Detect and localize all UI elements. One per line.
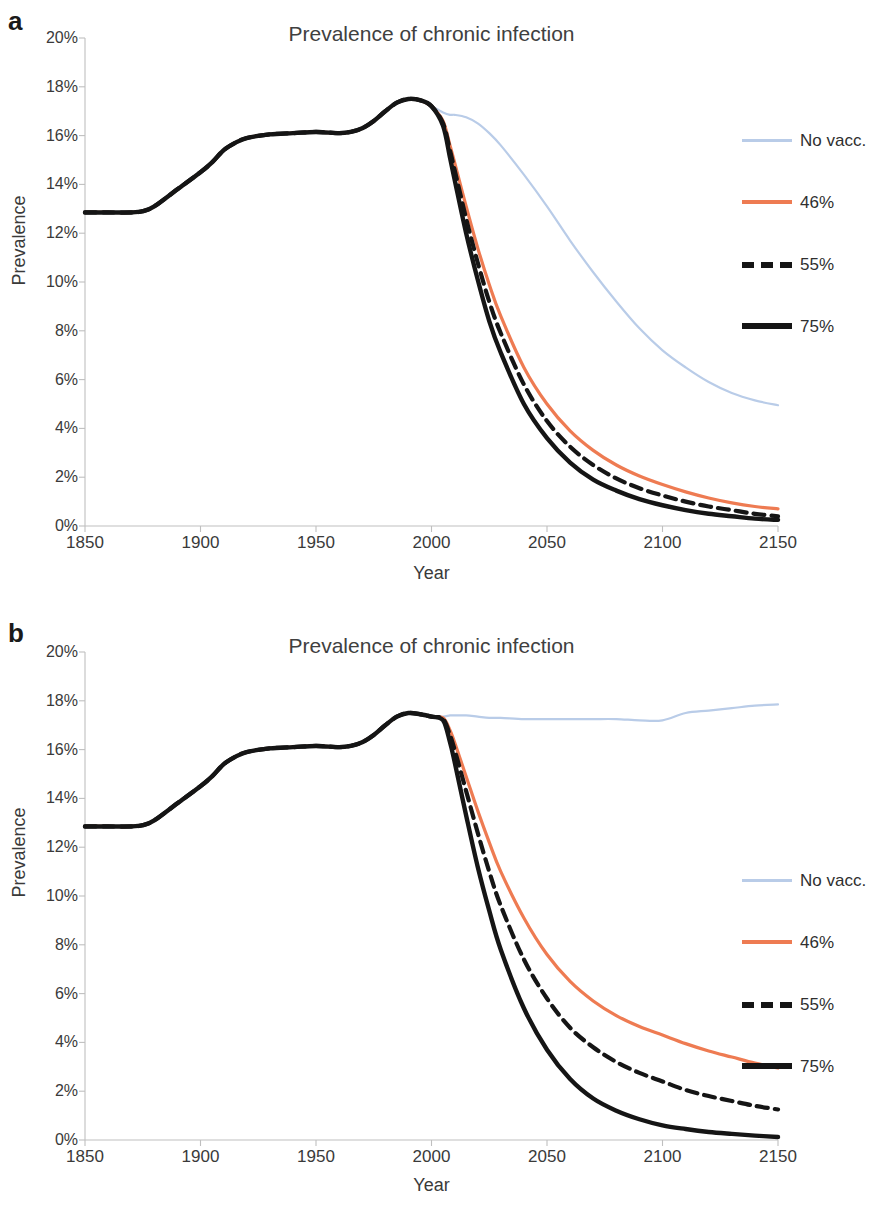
legend-label: 75% — [800, 316, 834, 338]
legend-label: 46% — [800, 932, 834, 954]
legend-item: 75% — [742, 1056, 883, 1078]
legend-label: 75% — [800, 1056, 834, 1078]
legend-swatch-46 — [742, 940, 792, 944]
legend-swatch-55 — [742, 262, 792, 268]
legend-label: 55% — [800, 994, 834, 1016]
series-line-75 — [85, 99, 778, 520]
series-line-no-vacc — [85, 99, 778, 405]
panel-b: b Prevalence of chronic infection Preval… — [0, 612, 883, 1224]
legend-item: 55% — [742, 254, 883, 276]
legend-item: No vacc. — [742, 870, 883, 892]
series-line-no-vacc — [85, 704, 778, 826]
figure-root: a Prevalence of chronic infection Preval… — [0, 0, 883, 1224]
series-line-46 — [85, 713, 778, 1068]
legend-label: No vacc. — [800, 870, 866, 892]
legend-a: No vacc.46%55%75% — [742, 130, 883, 350]
legend-item: 46% — [742, 192, 883, 214]
legend-label: 46% — [800, 192, 834, 214]
series-line-55 — [85, 713, 778, 1110]
legend-swatch-no-vacc — [742, 139, 792, 142]
series-line-55 — [85, 99, 778, 516]
legend-label: No vacc. — [800, 130, 866, 152]
legend-swatch-no-vacc — [742, 879, 792, 882]
legend-item: No vacc. — [742, 130, 883, 152]
legend-b: No vacc.46%55%75% — [742, 870, 883, 1090]
legend-swatch-55 — [742, 1002, 792, 1008]
legend-item: 55% — [742, 994, 883, 1016]
legend-swatch-46 — [742, 200, 792, 204]
legend-item: 46% — [742, 932, 883, 954]
legend-swatch-75 — [742, 1063, 792, 1069]
legend-label: 55% — [800, 254, 834, 276]
series-line-75 — [85, 713, 778, 1137]
legend-item: 75% — [742, 316, 883, 338]
series-line-46 — [85, 99, 778, 509]
panel-a: a Prevalence of chronic infection Preval… — [0, 0, 883, 612]
legend-swatch-75 — [742, 323, 792, 329]
